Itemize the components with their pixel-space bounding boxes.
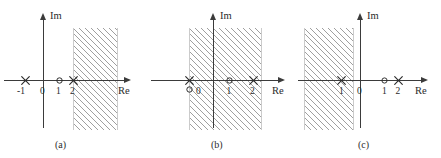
tick-label-c-2: 1 bbox=[382, 86, 387, 96]
tick-label-b-0: 0 bbox=[196, 86, 201, 96]
zero-marker-b-1 bbox=[226, 77, 233, 84]
imaginary-axis-label-b: Im bbox=[220, 11, 232, 21]
panel-b: Im Re 0 1 2 (b) bbox=[147, 0, 294, 158]
real-axis-arrow-b bbox=[278, 77, 285, 83]
imaginary-axis-arrow-a bbox=[40, 13, 46, 20]
panel-c: Im Re 1 0 1 2 (c) bbox=[294, 0, 441, 158]
real-axis-arrow-a bbox=[124, 77, 131, 83]
zero-marker-c-1 bbox=[381, 77, 388, 84]
panel-caption-b: (b) bbox=[211, 140, 223, 150]
roc-shaded-region-c bbox=[304, 28, 354, 130]
panel-caption-c: (c) bbox=[358, 140, 369, 150]
tick-label-a-0: -1 bbox=[17, 86, 25, 96]
imaginary-axis-label-a: Im bbox=[50, 11, 62, 21]
tick-label-c-0: 1 bbox=[339, 86, 344, 96]
panel-a: Im Re -1 0 1 2 (a) bbox=[0, 0, 147, 158]
imaginary-axis-b bbox=[213, 20, 214, 128]
pole-marker-b-2 bbox=[249, 76, 258, 85]
pole-marker-b-minus1 bbox=[185, 76, 194, 85]
tick-label-b-1: 1 bbox=[227, 86, 232, 96]
imaginary-axis-c bbox=[360, 20, 361, 128]
zero-marker-b-minus1 bbox=[186, 86, 193, 93]
panel-caption-a: (a) bbox=[55, 140, 66, 150]
tick-label-c-3: 2 bbox=[396, 86, 401, 96]
pole-marker-a-2 bbox=[69, 76, 78, 85]
imaginary-axis-arrow-c bbox=[357, 13, 363, 20]
zero-marker-a-1 bbox=[56, 77, 63, 84]
tick-label-a-3: 2 bbox=[70, 86, 75, 96]
imaginary-axis-arrow-b bbox=[210, 13, 216, 20]
pole-marker-a-minus1 bbox=[21, 76, 30, 85]
tick-label-a-1: 0 bbox=[40, 86, 45, 96]
real-axis-label-a: Re bbox=[118, 86, 130, 96]
imaginary-axis-a bbox=[43, 20, 44, 128]
tick-label-b-2: 2 bbox=[250, 86, 255, 96]
tick-label-a-2: 1 bbox=[56, 86, 61, 96]
roc-shaded-region-a bbox=[73, 28, 118, 130]
real-axis-b bbox=[151, 80, 279, 81]
tick-label-c-1: 0 bbox=[357, 86, 362, 96]
pole-zero-roc-figure: Im Re -1 0 1 2 (a) Im Re bbox=[0, 0, 441, 158]
real-axis-label-b: Re bbox=[272, 86, 284, 96]
imaginary-axis-label-c: Im bbox=[367, 11, 379, 21]
real-axis-label-c: Re bbox=[415, 86, 427, 96]
real-axis-arrow-c bbox=[421, 77, 428, 83]
pole-marker-c-minus1 bbox=[337, 76, 346, 85]
pole-marker-c-2 bbox=[394, 76, 403, 85]
